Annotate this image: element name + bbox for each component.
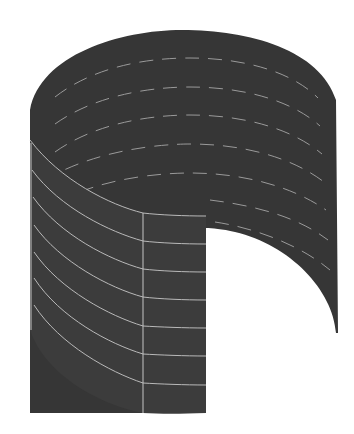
cylinder-surface-plot [0, 0, 354, 434]
